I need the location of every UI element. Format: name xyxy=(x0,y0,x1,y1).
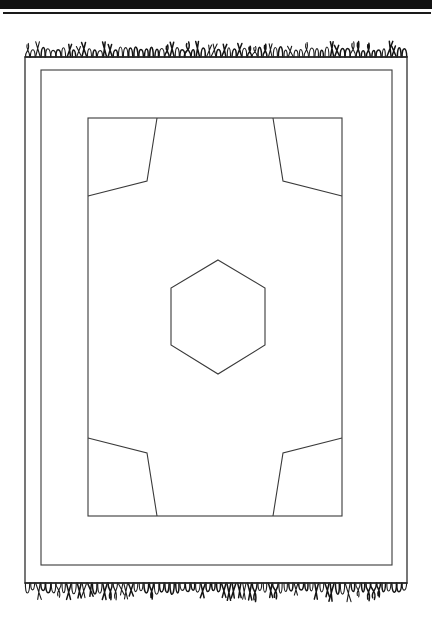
page-canvas xyxy=(0,0,432,631)
inner-field-rect xyxy=(88,118,342,516)
fringe-strand xyxy=(88,49,92,57)
fringe-strand xyxy=(268,44,272,57)
fringe-strand xyxy=(278,47,282,57)
fringe-strand xyxy=(118,583,124,595)
fringe-strand xyxy=(279,583,282,593)
fringe-strand xyxy=(216,50,221,57)
fringe-strand xyxy=(76,46,81,57)
fringe-strand xyxy=(366,43,370,57)
fringe-strand xyxy=(149,583,153,599)
fringe-strand xyxy=(294,50,298,57)
fringe-strand xyxy=(361,51,365,57)
fringe-strand xyxy=(150,47,154,57)
fringe-bottom xyxy=(25,583,407,602)
center-hexagon-medallion xyxy=(171,260,265,374)
fringe-strand xyxy=(77,583,81,598)
corner-motif-top-right xyxy=(273,118,342,196)
fringe-strand xyxy=(252,47,257,57)
fringe-strand xyxy=(62,583,65,593)
fringe-strand xyxy=(392,46,397,57)
fringe-strand xyxy=(165,583,169,593)
fringe-strand xyxy=(170,42,174,57)
top-rule-thick-bar xyxy=(0,0,432,9)
fringe-strand xyxy=(314,583,318,599)
fringe-strand xyxy=(320,583,324,592)
fringe-strand xyxy=(351,583,355,591)
fringe-strand xyxy=(25,583,29,593)
fringe-strand xyxy=(134,47,138,57)
fringe-strand xyxy=(330,42,333,57)
fringe-strand xyxy=(320,50,323,57)
fringe-strand xyxy=(387,583,391,591)
fringe-strand xyxy=(227,48,230,57)
fringe-strand xyxy=(191,50,195,57)
fringe-strand xyxy=(31,583,35,590)
top-rule-thin-bar xyxy=(3,12,431,14)
fringe-strand xyxy=(155,49,159,57)
fringe-strand xyxy=(397,583,402,592)
fringe-strand xyxy=(309,48,314,57)
fringe-strand xyxy=(273,48,277,57)
fringe-strand xyxy=(258,583,262,591)
fringe-strand xyxy=(102,583,107,599)
fringe-strand xyxy=(221,583,226,597)
fringe-strand xyxy=(180,583,185,590)
fringe-top xyxy=(25,41,407,57)
fringe-strand xyxy=(284,583,287,592)
fringe-strand xyxy=(335,583,339,594)
fringe-strand xyxy=(128,583,133,596)
fringe-strand xyxy=(72,50,76,57)
fringe-strand xyxy=(191,583,195,590)
fringe-strand xyxy=(238,583,242,598)
fringe-strand xyxy=(139,583,143,591)
fringe-strand xyxy=(305,583,308,591)
fringe-strand xyxy=(248,583,252,600)
fringe-strand xyxy=(56,583,61,597)
fringe-strand xyxy=(289,583,293,591)
fringe-strand xyxy=(134,583,138,592)
fringe-strand xyxy=(51,50,56,57)
fringe-strand xyxy=(123,48,128,57)
fringe-strand xyxy=(217,583,221,592)
fringe-strand xyxy=(232,49,236,57)
fringe-strand xyxy=(93,50,97,57)
fringe-strand xyxy=(97,51,102,57)
fringe-strand xyxy=(222,44,227,57)
fringe-strand xyxy=(144,49,148,57)
fringe-strand xyxy=(284,50,287,57)
fringe-strand xyxy=(81,583,86,598)
fringe-strand xyxy=(108,583,112,600)
fringe-strand xyxy=(62,48,66,57)
fringe-strand xyxy=(334,45,340,57)
fringe-strand xyxy=(113,50,117,57)
fringe-strand xyxy=(200,583,205,598)
fringe-strand xyxy=(258,47,262,57)
fringe-strand xyxy=(170,583,174,594)
fringe-strand xyxy=(252,583,257,602)
corner-motif-bottom-right xyxy=(273,438,342,516)
fringe-strand xyxy=(196,41,200,57)
fringe-strand xyxy=(304,42,308,57)
fringe-strand xyxy=(56,50,61,57)
fringe-strand xyxy=(329,583,334,601)
fringe-strand xyxy=(382,49,385,57)
rug-diagram xyxy=(0,22,432,631)
fringe-strand xyxy=(201,48,205,57)
fringe-strand xyxy=(212,583,216,591)
fringe-strand xyxy=(299,583,304,590)
fringe-strand xyxy=(72,583,77,594)
fringe-strand xyxy=(231,583,236,598)
fringe-strand xyxy=(66,583,71,599)
fringe-strand xyxy=(372,51,375,57)
fringe-strand xyxy=(41,48,45,57)
fringe-strand xyxy=(325,47,329,57)
fringe-strand xyxy=(113,583,117,600)
fringe-strand xyxy=(154,583,159,594)
outer-border-rect xyxy=(25,57,407,583)
fringe-strand xyxy=(361,583,364,592)
fringe-strand xyxy=(51,583,56,593)
fringe-strand xyxy=(247,46,251,57)
fringe-strand xyxy=(340,48,345,57)
fringe-strand xyxy=(144,583,149,593)
fringe-strand xyxy=(370,583,376,599)
